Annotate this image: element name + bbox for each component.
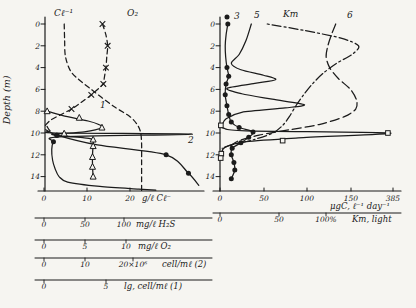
lake-depth-profile-figure: 02468101214Depth (m)01020g/ℓ Cℓ⁻050100mg…	[0, 0, 416, 308]
dot-marker	[224, 103, 229, 108]
sq-marker	[386, 131, 391, 136]
series-photosynthesis-phytoplankton-path	[222, 24, 305, 125]
y-tick-label: 12	[30, 151, 40, 160]
dot-marker	[186, 171, 191, 176]
dot-marker	[164, 152, 169, 157]
y-tick-label: 2	[209, 42, 215, 51]
ruler-tick-label: 10	[121, 242, 131, 251]
ruler-unit: cell/mℓ (2)	[162, 259, 206, 269]
dot-marker	[231, 160, 236, 165]
ruler-tick-label: 50	[80, 220, 90, 229]
x-tick-label: 0	[218, 194, 223, 203]
ruler-tick-label: 100	[117, 220, 132, 229]
curve-label: 6	[347, 10, 353, 20]
series-oxygen-path	[45, 24, 107, 125]
ruler-tick-label: 5	[83, 242, 88, 251]
left-panel-hydrochemistry-chart: 02468101214Depth (m)01020g/ℓ Cℓ⁻050100mg…	[1, 8, 212, 291]
y-tick-label: 12	[205, 151, 215, 160]
tri-marker	[90, 154, 96, 160]
dot-marker	[225, 15, 230, 20]
x-axis-unit: μgC, ℓ⁻¹ day⁻¹	[330, 201, 390, 211]
dot-marker	[226, 74, 231, 79]
right-panel-production-chart: 02468101214050100150385μgC, ℓ⁻¹ day⁻¹050…	[205, 9, 401, 224]
x-axis-unit: g/ℓ Cℓ⁻	[142, 193, 171, 203]
x-marker	[101, 81, 107, 87]
dot-marker	[224, 65, 229, 70]
ruler-unit: Kт, light	[351, 214, 392, 224]
dot-marker	[223, 92, 228, 97]
sq-marker	[280, 138, 285, 143]
curve-label: 1	[100, 100, 106, 110]
y-tick-label: 4	[209, 63, 215, 72]
y-tick-label: 10	[30, 129, 40, 138]
y-tick-label: 2	[34, 42, 40, 51]
x-tick-label: 20	[124, 194, 135, 203]
sq-marker	[219, 123, 224, 128]
y-tick-label: 8	[35, 107, 40, 116]
ruler-unit: mg/ℓ O₂	[138, 241, 172, 251]
dot-marker	[237, 125, 242, 130]
dot-marker	[251, 129, 256, 134]
y-tick-label: 6	[210, 85, 215, 94]
ruler-tick-label: 0	[42, 260, 47, 269]
x-marker	[89, 92, 95, 98]
y-tick-label: 10	[205, 129, 215, 138]
tri-marker	[76, 114, 82, 120]
ruler-tick-label: 0	[42, 282, 47, 291]
dot-marker	[229, 120, 234, 125]
series-curve-6-path	[230, 24, 357, 146]
x-tick-label: 0	[42, 194, 47, 203]
ruler-tick-label: 0	[218, 215, 223, 224]
sq-marker	[218, 156, 223, 161]
y-tick-label: 4	[34, 63, 40, 72]
curve-label: Cℓ⁻¹	[54, 8, 73, 18]
y-axis-title: Depth (m)	[1, 75, 12, 125]
ruler-tick-label: 0	[42, 242, 47, 251]
x-marker	[69, 106, 75, 112]
dot-marker	[51, 139, 56, 144]
series-kt-light-path	[222, 24, 359, 148]
y-tick-label: 14	[205, 172, 215, 181]
dot-marker	[225, 22, 230, 27]
ruler-tick-label: 0	[42, 220, 47, 229]
ruler-tick-label: 50	[274, 215, 284, 224]
dot-marker	[229, 152, 234, 157]
tri-marker	[90, 173, 96, 179]
x-tick-label: 10	[82, 194, 92, 203]
y-tick-label: 0	[35, 20, 40, 29]
series-hydrogen-sulfide-path	[46, 130, 199, 186]
curve-label: 2	[187, 135, 194, 145]
dot-marker	[224, 81, 229, 86]
ruler-tick-label: 5	[104, 282, 109, 291]
curve-label: 3	[234, 11, 240, 21]
ruler-tick-label: 100%	[315, 215, 336, 224]
x-tick-label: 50	[259, 194, 269, 203]
y-tick-label: 14	[30, 172, 40, 181]
y-tick-label: 0	[210, 20, 215, 29]
ruler-tick-label: 10	[80, 260, 90, 269]
dot-marker	[232, 168, 237, 173]
curve-label: O₂	[127, 8, 138, 18]
y-tick-label: 6	[35, 85, 40, 94]
ruler-unit: mg/ℓ H₂S	[136, 219, 175, 229]
x-tick-label: 100	[300, 194, 315, 203]
ruler-tick-label: 20×10⁶	[118, 260, 147, 269]
tri-marker	[90, 163, 96, 169]
figure-canvas: 02468101214Depth (m)01020g/ℓ Cℓ⁻050100mg…	[0, 0, 416, 308]
y-tick-label: 8	[210, 107, 215, 116]
curve-label: Kт	[282, 9, 298, 19]
dot-marker	[229, 176, 234, 181]
curve-label: 5	[254, 10, 260, 20]
ruler-unit: lg, cell/mℓ (1)	[124, 281, 182, 291]
